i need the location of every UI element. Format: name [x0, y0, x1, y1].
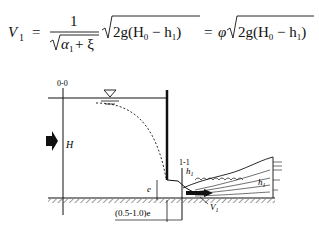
label-distance: (0.5-1.0)e [115, 208, 151, 218]
label-H: H [65, 139, 74, 150]
label-h1-right: h1 [258, 177, 266, 188]
velocity-ticks [273, 162, 282, 190]
label-section-0-0: 0-0 [57, 79, 68, 88]
bed-hatching [48, 199, 275, 203]
water-level-triangle-icon [104, 90, 116, 97]
sluice-gate-diagram: 0-0 H e 1-1 h1 h1 V1 (0.5-1. [0, 0, 319, 230]
label-V1: V1 [210, 202, 219, 213]
flow-arrow-icon [46, 131, 58, 151]
roller-foam [195, 178, 243, 180]
label-e: e [147, 184, 151, 194]
label-h1-top: h1 [186, 166, 194, 177]
free-surface-streamline [96, 103, 166, 178]
